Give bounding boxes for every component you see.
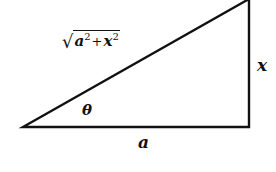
right-triangle-diagram: √a2+x2 x θ a: [0, 0, 276, 172]
exponent-x: 2: [112, 31, 118, 42]
opposite-side-label: x: [257, 57, 267, 74]
plus-sign: +: [91, 34, 104, 49]
hypotenuse-label: √a2+x2: [62, 31, 120, 49]
adjacent-side-label: a: [138, 134, 149, 151]
base-a: a: [74, 32, 84, 50]
exponent-a: 2: [84, 31, 90, 42]
radical-sign: √: [62, 31, 73, 52]
triangle-sides: [23, 0, 249, 127]
radicand: a2+x2: [73, 30, 119, 50]
angle-label: θ: [82, 103, 92, 118]
